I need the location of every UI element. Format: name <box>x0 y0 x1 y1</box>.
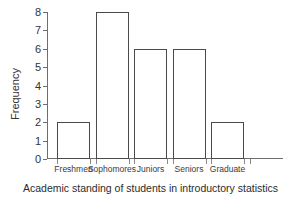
x-tick-mark <box>173 159 174 164</box>
y-tick-mark <box>43 86 47 87</box>
y-tick-mark <box>43 159 47 160</box>
plot-area: 012345678 FreshmenSophomoresJuniorsSenio… <box>47 12 283 159</box>
y-tick-mark <box>43 104 47 105</box>
bar <box>57 122 90 159</box>
x-tick-label: Seniors <box>175 164 204 174</box>
x-tick-label: Freshmen <box>54 164 92 174</box>
x-tick-mark <box>167 159 168 164</box>
bar <box>173 49 206 159</box>
y-tick-label: 0 <box>35 153 41 165</box>
y-tick-mark <box>43 122 47 123</box>
y-axis-title: Frequency <box>9 14 25 174</box>
bar-chart-figure: Frequency 012345678 FreshmenSophomoresJu… <box>0 0 301 201</box>
y-tick-label: 1 <box>35 135 41 147</box>
x-tick-mark <box>250 159 251 164</box>
x-tick-label: Graduate <box>210 164 245 174</box>
y-tick-mark <box>43 30 47 31</box>
y-tick-mark <box>43 67 47 68</box>
y-tick-label: 7 <box>35 24 41 36</box>
y-tick-label: 3 <box>35 98 41 110</box>
y-tick-mark <box>43 141 47 142</box>
y-axis-line <box>47 12 48 159</box>
figure-caption: Academic standing of students in introdu… <box>0 182 301 194</box>
bar <box>211 122 244 159</box>
x-tick-label: Juniors <box>137 164 164 174</box>
bar <box>134 49 167 159</box>
y-tick-label: 2 <box>35 116 41 128</box>
y-tick-mark <box>43 49 47 50</box>
x-tick-mark <box>206 159 207 164</box>
y-tick-label: 4 <box>35 80 41 92</box>
y-tick-mark <box>43 12 47 13</box>
y-tick-label: 8 <box>35 6 41 18</box>
bar <box>96 12 129 159</box>
y-tick-label: 6 <box>35 43 41 55</box>
x-tick-label: Sophomores <box>88 164 136 174</box>
y-tick-label: 5 <box>35 61 41 73</box>
